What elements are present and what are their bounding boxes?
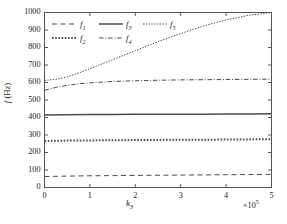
legend-label-sub: 1 [82, 23, 85, 30]
x-tick-label: 0 [31, 191, 59, 200]
y-tick-label: 100 [28, 165, 40, 174]
x-axis-label: k3 [126, 198, 133, 210]
y-axis-label-unit: (Hz) [2, 83, 12, 101]
legend-label-f5: f5 [170, 19, 175, 31]
y-tick-label: 200 [28, 147, 40, 156]
legend-label-f2: f2 [80, 33, 85, 45]
x-tick-label: 3 [167, 191, 195, 200]
y-axis-label-base: f [2, 101, 12, 103]
y-tick-label: 300 [28, 130, 40, 139]
y-axis-label: f (Hz) [2, 70, 12, 116]
y-tick-label: 600 [28, 77, 40, 86]
y-tick-label: 800 [28, 42, 40, 51]
y-tick-label: 500 [28, 95, 40, 104]
legend-label-sub: 5 [172, 23, 175, 30]
legend-label-f1: f1 [80, 19, 85, 31]
series-line-f3 [45, 114, 272, 115]
x-axis-multiplier-exp: 5 [256, 199, 259, 205]
x-axis-label-sub: 3 [130, 203, 133, 210]
y-tick-label: 400 [28, 112, 40, 121]
x-tick-label: 1 [76, 191, 104, 200]
x-tick-label: 2 [121, 191, 149, 200]
legend-label-f3: f3 [126, 19, 131, 31]
x-axis-multiplier: ×105 [243, 199, 259, 210]
legend-label-f4: f4 [126, 33, 131, 45]
legend-label-sub: 4 [128, 37, 131, 44]
x-tick-label: 5 [258, 191, 286, 200]
legend-label-sub: 2 [82, 37, 85, 44]
plot-frame [45, 13, 272, 188]
x-tick-label: 4 [212, 191, 240, 200]
y-tick-label: 1000 [24, 7, 40, 16]
y-tick-label: 900 [28, 25, 40, 34]
x-axis-multiplier-base: ×10 [243, 201, 256, 210]
legend-label-sub: 3 [128, 23, 131, 30]
y-tick-label: 700 [28, 60, 40, 69]
